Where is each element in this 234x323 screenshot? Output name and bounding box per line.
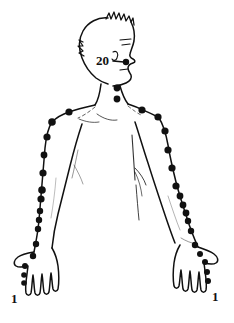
human-figure-illustration [0, 0, 234, 323]
point-li1-right[interactable] [205, 278, 211, 284]
point-left-forearm-5[interactable] [35, 226, 41, 232]
point-left-upper-arm-2[interactable] [41, 152, 48, 159]
point-right-elbow[interactable] [168, 164, 175, 171]
right-arm-inner [135, 122, 175, 243]
point-right-forearm-3[interactable] [180, 202, 187, 209]
acupuncture-points [21, 59, 211, 286]
point-right-finger-base[interactable] [197, 251, 203, 257]
point-left-deltoid[interactable] [48, 118, 56, 126]
point-right-upper-arm-1[interactable] [161, 127, 168, 134]
eye-line [122, 44, 130, 45]
side-hint-left-2 [74, 165, 83, 184]
point-neck-lower[interactable] [114, 96, 121, 103]
point-label-1-left: 1 [11, 292, 18, 305]
point-label-1-right: 1 [212, 290, 219, 303]
point-right-wrist[interactable] [188, 228, 194, 234]
point-li20[interactable] [123, 59, 129, 65]
point-right-finger-mid[interactable] [202, 259, 208, 265]
point-right-hand-back[interactable] [192, 242, 198, 248]
point-left-finger-base[interactable] [22, 263, 28, 269]
point-left-finger-mid[interactable] [21, 272, 27, 278]
point-left-forearm-2[interactable] [37, 195, 44, 202]
acupuncture-chart-page: 20 1 1 [0, 0, 234, 323]
neck-right [120, 86, 128, 104]
torso-left-side [52, 105, 95, 122]
hair-spikes [106, 12, 134, 25]
point-left-forearm-3[interactable] [37, 208, 43, 214]
point-group-face-neck [114, 59, 130, 103]
ear-outline [112, 51, 118, 60]
abdomen-line [136, 185, 139, 220]
point-right-upper-arm-2[interactable] [164, 146, 171, 153]
forearm-hint-left [51, 178, 56, 218]
point-left-forearm-4[interactable] [36, 217, 42, 223]
point-left-elbow[interactable] [39, 169, 46, 176]
leader-line-20 [113, 61, 124, 62]
point-right-forearm-5[interactable] [185, 218, 191, 224]
sternum-line [132, 135, 135, 180]
point-label-20: 20 [96, 54, 109, 67]
point-right-forearm-4[interactable] [183, 210, 190, 217]
shoulder-fold-left [79, 119, 99, 122]
point-left-upper-arm-1[interactable] [43, 133, 50, 140]
point-right-finger-lower[interactable] [204, 269, 210, 275]
face-profile [113, 22, 135, 86]
brow-line [120, 39, 131, 40]
point-neck-upper[interactable] [114, 85, 121, 92]
left-hand-outline [14, 248, 58, 295]
forearm-hint-right [168, 196, 180, 230]
right-arm-outer [159, 118, 198, 247]
point-left-shoulder[interactable] [65, 108, 72, 115]
mouth-line [120, 69, 128, 70]
point-right-forearm-1[interactable] [172, 182, 179, 189]
head-outline [80, 18, 109, 84]
neck-base-line [97, 114, 117, 120]
neck-left [95, 84, 101, 105]
point-group-left-arm [21, 108, 72, 285]
point-left-hand-back[interactable] [30, 253, 36, 259]
point-right-deltoid[interactable] [154, 113, 161, 120]
right-hand-outline [173, 245, 217, 292]
point-right-forearm-2[interactable] [177, 193, 184, 200]
point-li1-left[interactable] [21, 280, 27, 286]
left-arm-inner [52, 124, 82, 248]
point-left-wrist[interactable] [33, 241, 39, 247]
point-right-shoulder[interactable] [138, 106, 145, 113]
point-left-forearm-1[interactable] [38, 186, 46, 194]
